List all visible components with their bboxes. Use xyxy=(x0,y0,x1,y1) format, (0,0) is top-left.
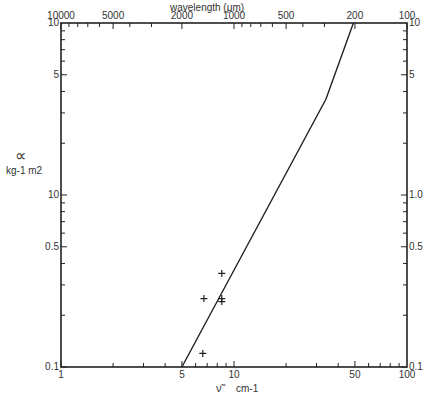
y-tick-label-right: 10 xyxy=(409,18,420,28)
data-point-marker xyxy=(218,270,225,277)
x-tick-label: 5 xyxy=(168,370,196,380)
y-tick-label-right: 0.5 xyxy=(409,242,423,252)
y-tick-label-left: 0.5 xyxy=(45,242,59,252)
y-tick-label-left: 10 xyxy=(48,190,59,200)
top-axis-title: wavelength (μm) xyxy=(170,2,244,13)
x-axis-units: cm-1 xyxy=(236,384,258,394)
plot-frame xyxy=(61,23,407,367)
x-tick-label: 50 xyxy=(341,370,369,380)
x-axis-symbol: ν̃ xyxy=(216,383,222,394)
y-axis-units: kg-1 m2 xyxy=(6,166,42,176)
y-tick-label-left: 0.1 xyxy=(45,362,59,372)
chart-canvas xyxy=(0,0,427,400)
y-axis-symbol: ∝ xyxy=(15,148,26,164)
y-tick-label-right: 0.1 xyxy=(409,362,423,372)
y-tick-label-right: 1.0 xyxy=(409,190,423,200)
y-tick-label-left: 5 xyxy=(53,70,59,80)
top-tick-label: 200 xyxy=(341,11,369,21)
data-point-marker xyxy=(199,350,206,357)
y-tick-label-left: 10 xyxy=(48,18,59,28)
top-tick-label: 5000 xyxy=(99,11,127,21)
data-point-marker xyxy=(200,295,207,302)
x-tick-label: 10 xyxy=(220,370,248,380)
model-curve-line xyxy=(182,23,354,367)
y-tick-label-right: 5 xyxy=(409,70,415,80)
top-tick-label: 500 xyxy=(272,11,300,21)
